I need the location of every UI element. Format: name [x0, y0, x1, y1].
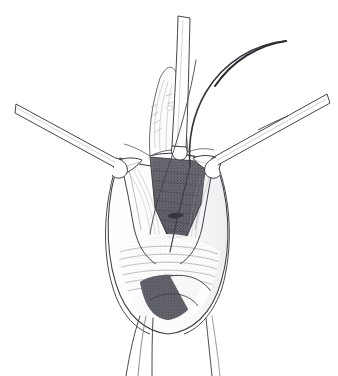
figure-page: { "figure": { "domain": "illustration", … — [0, 0, 338, 376]
surgical-illustration — [0, 0, 338, 376]
figure-caption — [0, 367, 338, 376]
vertical-instrument-tip — [171, 146, 187, 160]
